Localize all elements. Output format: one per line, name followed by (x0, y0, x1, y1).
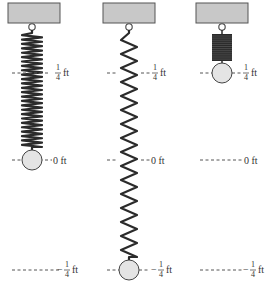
unit-label: ft (166, 264, 172, 275)
unit-label: ft (258, 264, 264, 275)
fraction-denominator: 4 (56, 73, 60, 82)
unit-label: ft (160, 67, 166, 78)
spring (22, 30, 42, 150)
spring-mass-diagram: 1 4 ft 0 ft − 1 4 ft 1 4 ft 0 ft (0, 0, 272, 299)
fraction-numerator: 1 (153, 63, 157, 72)
ceiling-block (103, 3, 155, 23)
label-bottom: − 1 4 ft (243, 260, 264, 279)
hook-icon (29, 24, 35, 30)
label-top: 1 4 ft (152, 63, 166, 82)
fraction-denominator: 4 (159, 270, 163, 279)
fraction-denominator: 4 (65, 270, 69, 279)
mass (212, 63, 232, 83)
panel-compressed: 1 4 ft 0 ft − 1 4 ft (196, 3, 264, 279)
unit-label: ft (72, 264, 78, 275)
label-bottom: − 1 4 ft (57, 260, 78, 279)
label-zero: 0 ft (151, 155, 165, 166)
label-zero: 0 ft (244, 155, 258, 166)
label-top: 1 4 ft (243, 63, 257, 82)
fraction-numerator: 1 (56, 63, 60, 72)
label-zero: 0 ft (53, 155, 67, 166)
fraction-denominator: 4 (244, 73, 248, 82)
fraction-denominator: 4 (251, 270, 255, 279)
panel-stretched: 1 4 ft 0 ft − 1 4 ft (103, 3, 172, 280)
minus-sign: − (57, 264, 63, 275)
label-top: 1 4 ft (55, 63, 69, 82)
minus-sign: − (151, 264, 157, 275)
ceiling-block (8, 3, 60, 23)
label-bottom: − 1 4 ft (151, 260, 172, 279)
hook-icon (126, 24, 132, 30)
fraction-numerator: 1 (244, 63, 248, 72)
mass (22, 150, 42, 170)
mass (119, 260, 139, 280)
hook-icon (219, 24, 225, 30)
fraction-numerator: 1 (159, 260, 163, 269)
fraction-numerator: 1 (251, 260, 255, 269)
ceiling-block (196, 3, 248, 23)
spring (121, 30, 137, 260)
spring-compressed (212, 30, 232, 64)
fraction-numerator: 1 (65, 260, 69, 269)
panel-equilibrium: 1 4 ft 0 ft − 1 4 ft (8, 3, 78, 279)
fraction-denominator: 4 (153, 73, 157, 82)
unit-label: ft (251, 67, 257, 78)
unit-label: ft (63, 67, 69, 78)
minus-sign: − (243, 264, 249, 275)
